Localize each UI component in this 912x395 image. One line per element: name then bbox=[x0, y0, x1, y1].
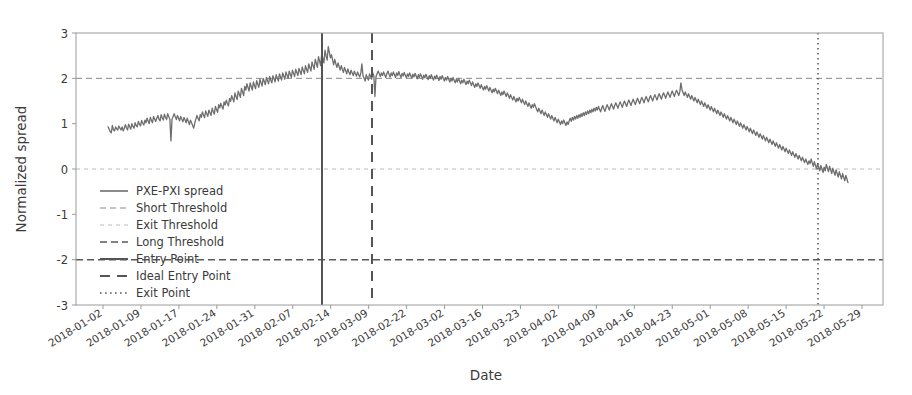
y-tick-label: 2 bbox=[61, 72, 68, 86]
legend-label-ideal-entry-point: Ideal Entry Point bbox=[136, 269, 231, 283]
legend-label-long-threshold: Long Threshold bbox=[136, 235, 224, 249]
y-tick-label: -3 bbox=[57, 299, 68, 313]
y-tick-label: -2 bbox=[57, 253, 68, 267]
x-axis-ticks: 2018-01-022018-01-092018-01-172018-01-24… bbox=[46, 305, 863, 349]
legend-label-pxe-pxi-spread: PXE-PXI spread bbox=[136, 184, 223, 198]
y-axis-ticks: -3-2-10123 bbox=[57, 27, 76, 313]
x-axis-title: Date bbox=[470, 367, 502, 383]
y-axis-title: Normalized spread bbox=[13, 106, 29, 233]
y-tick-label: 0 bbox=[61, 163, 68, 177]
y-tick-label: 3 bbox=[61, 27, 68, 41]
legend-label-entry-point: Entry Point bbox=[136, 252, 199, 266]
y-tick-label: -1 bbox=[57, 208, 68, 222]
legend-label-exit-threshold: Exit Threshold bbox=[136, 218, 218, 232]
legend-label-short-threshold: Short Threshold bbox=[136, 201, 227, 215]
chart-canvas: -3-2-10123 2018-01-022018-01-092018-01-1… bbox=[0, 0, 912, 395]
spread-chart-figure: -3-2-10123 2018-01-022018-01-092018-01-1… bbox=[0, 0, 912, 395]
legend-label-exit-point: Exit Point bbox=[136, 286, 190, 300]
y-tick-label: 1 bbox=[61, 117, 68, 131]
